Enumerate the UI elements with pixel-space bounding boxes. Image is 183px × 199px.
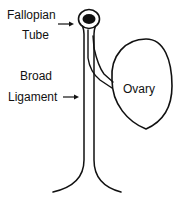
broad-ligament-shape	[53, 26, 121, 192]
arrow-fallopian	[58, 22, 74, 27]
arrow-broad-ligament	[63, 95, 79, 100]
label-fallopian-line1: Fallopian	[7, 9, 56, 21]
label-fallopian-line2: Tube	[22, 29, 49, 41]
label-ovary: Ovary	[123, 83, 155, 95]
anatomy-diagram: Fallopian Tube Broad Ligament Ovary	[0, 0, 183, 199]
label-broad-line2: Ligament	[8, 91, 57, 103]
label-broad-line1: Broad	[20, 70, 52, 82]
tube-lumen	[83, 14, 96, 24]
mesovarium-shape	[88, 30, 113, 88]
